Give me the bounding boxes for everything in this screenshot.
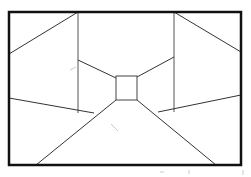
vanishing-square <box>116 76 137 100</box>
lower-left-wall <box>9 98 94 113</box>
lower-right-wall <box>158 95 241 112</box>
ceiling-right <box>137 57 174 77</box>
top-right-diagonal <box>174 12 241 52</box>
ceiling-left <box>78 60 116 78</box>
perspective-diagram <box>0 0 251 177</box>
top-left-diagonal <box>9 12 78 54</box>
floor-right-diagonal <box>137 100 216 165</box>
scan-speck <box>111 124 118 131</box>
scan-speck <box>70 67 76 70</box>
